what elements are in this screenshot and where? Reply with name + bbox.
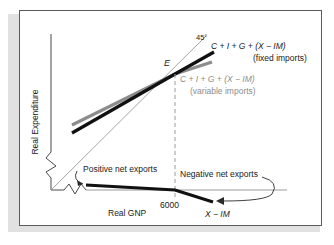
variable-imports-label-line1: C + I + G + (X − IM)	[180, 74, 255, 84]
figure-root: Real Expenditure Real GNP 45° E C + I + …	[0, 0, 334, 245]
positive-net-exports-label: Positive net exports	[83, 164, 157, 174]
net-exports-line-label: X − IM	[204, 209, 231, 219]
y-axis-break-mark	[46, 152, 56, 178]
negative-net-exports-leader	[223, 177, 274, 201]
net-exports-line	[86, 185, 213, 202]
forty-five-degree-label: 45°	[196, 33, 207, 42]
expenditure-chart: Real Expenditure Real GNP 45° E C + I + …	[0, 0, 334, 245]
fixed-imports-label-line1: C + I + G + (X − IM)	[211, 41, 286, 51]
equilibrium-point-label: E	[164, 58, 171, 68]
negative-net-exports-label: Negative net exports	[180, 169, 258, 179]
fixed-imports-label-line2: (fixed imports)	[253, 53, 307, 63]
y-axis-label: Real Expenditure	[30, 89, 40, 154]
negative-net-exports-arrowhead	[216, 197, 224, 205]
x-axis-break-mark	[64, 184, 86, 194]
x-tick-label-6000: 6000	[160, 200, 179, 210]
x-axis-label: Real GNP	[108, 208, 147, 218]
variable-imports-label-line2: (variable imports)	[190, 86, 256, 96]
